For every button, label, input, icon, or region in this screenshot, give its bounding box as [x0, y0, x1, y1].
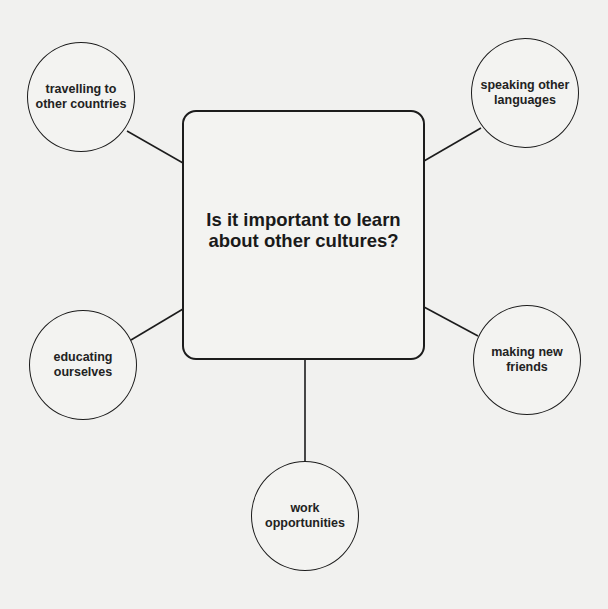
node-speaking-label: speaking other languages: [481, 78, 570, 109]
central-topic-box: Is it important to learn about other cul…: [182, 110, 425, 360]
connector-speaking: [424, 128, 481, 161]
central-topic-line1: Is it important to learn: [206, 209, 400, 230]
connector-friends: [424, 307, 478, 336]
node-work-label: work opportunities: [265, 501, 345, 532]
central-topic-text: Is it important to learn about other cul…: [206, 209, 400, 251]
node-travelling: travelling to other countries: [27, 42, 135, 152]
node-educating-label: educating ourselves: [53, 350, 112, 381]
node-travelling-label: travelling to other countries: [36, 82, 127, 113]
node-friends-label: making new friends: [491, 345, 563, 376]
node-work: work opportunities: [251, 461, 359, 571]
node-speaking: speaking other languages: [471, 38, 579, 148]
connector-travelling: [127, 131, 183, 163]
central-topic-line2: about other cultures?: [208, 230, 398, 251]
node-friends: making new friends: [473, 305, 581, 415]
node-educating: educating ourselves: [29, 310, 137, 420]
connector-educating: [131, 309, 183, 340]
